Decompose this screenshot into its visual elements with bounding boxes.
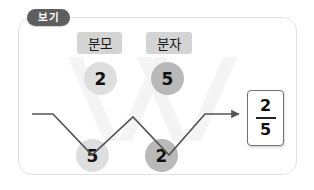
result-numerator: 2: [260, 95, 271, 117]
boki-tag: 보기: [27, 9, 70, 26]
result-fraction-box: 2 5: [247, 90, 284, 146]
result-denominator: 5: [260, 119, 271, 141]
worksheet-canvas: 보기 분모 분자 2 5 5 2 2 5: [0, 0, 314, 190]
